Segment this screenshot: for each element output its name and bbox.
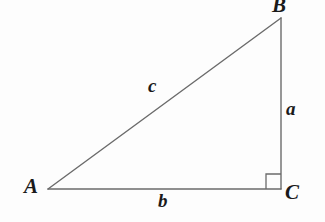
- triangle-drawing: [0, 0, 325, 222]
- side-label-a: a: [286, 99, 296, 118]
- side-label-b: b: [158, 191, 168, 210]
- right-angle-marker-icon: [266, 174, 281, 189]
- vertex-label-c: C: [285, 182, 299, 203]
- side-label-c: c: [148, 76, 156, 95]
- triangle-diagram: A B C a b c: [0, 0, 325, 222]
- vertex-label-b: B: [272, 0, 286, 16]
- side-c-hypotenuse-line: [48, 18, 281, 189]
- vertex-label-a: A: [24, 176, 38, 197]
